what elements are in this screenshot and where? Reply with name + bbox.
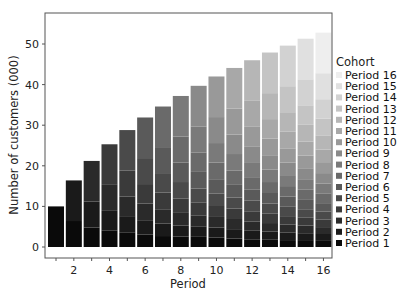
bar-segment-cohort-11 <box>244 101 260 127</box>
bar-segment-cohort-5 <box>226 197 242 208</box>
legend-item: Period 1 <box>336 237 390 250</box>
bar-segment-cohort-13 <box>298 105 314 124</box>
legend-swatch <box>336 229 342 235</box>
bar-segment-cohort-2 <box>226 229 242 238</box>
bar-segment-cohort-5 <box>298 209 314 218</box>
legend-swatch <box>336 106 342 112</box>
bar-segment-cohort-1 <box>48 206 64 247</box>
bar-segment-cohort-3 <box>244 221 260 230</box>
bar-segment-cohort-1 <box>155 236 171 247</box>
y-tick-label: 40 <box>25 79 39 92</box>
bar-segment-cohort-10 <box>244 127 260 146</box>
bar-segment-cohort-3 <box>191 215 207 226</box>
bars-layer <box>48 33 331 247</box>
bar-segment-cohort-2 <box>66 180 82 221</box>
legend-swatch <box>336 72 342 78</box>
x-tick-label: 2 <box>70 264 77 277</box>
bar-period-10 <box>208 76 224 247</box>
bar-segment-cohort-9 <box>208 117 224 143</box>
bar-segment-cohort-5 <box>137 158 153 184</box>
bar-segment-cohort-7 <box>173 137 189 163</box>
bar-segment-cohort-14 <box>315 99 331 118</box>
y-tick-label: 50 <box>25 38 39 51</box>
bar-segment-cohort-12 <box>315 135 331 149</box>
bar-segment-cohort-3 <box>119 197 135 216</box>
bar-segment-cohort-3 <box>298 225 314 233</box>
bar-segment-cohort-5 <box>191 189 207 203</box>
bar-period-4 <box>101 144 117 247</box>
bar-segment-cohort-5 <box>280 207 296 216</box>
bar-segment-cohort-10 <box>298 156 314 169</box>
y-tick-label: 0 <box>32 241 39 254</box>
bar-segment-cohort-4 <box>315 219 331 227</box>
bar-segment-cohort-3 <box>280 225 296 233</box>
bar-segment-cohort-12 <box>262 93 278 119</box>
x-tick-label: 6 <box>142 264 149 277</box>
bar-segment-cohort-3 <box>84 161 100 202</box>
bar-segment-cohort-10 <box>226 109 242 135</box>
legend-swatch <box>336 83 342 89</box>
bar-period-7 <box>155 107 171 247</box>
bar-segment-cohort-5 <box>262 204 278 214</box>
bar-period-9 <box>191 86 207 247</box>
x-axis-title: Period <box>170 277 206 291</box>
bar-segment-cohort-10 <box>262 139 278 156</box>
legend-swatch <box>336 184 342 190</box>
x-tick-label: 12 <box>245 264 259 277</box>
bar-segment-cohort-15 <box>315 73 331 99</box>
bar-segment-cohort-7 <box>315 194 331 203</box>
bar-period-3 <box>84 161 100 247</box>
bar-segment-cohort-9 <box>191 86 207 127</box>
x-tick-label: 4 <box>106 264 113 277</box>
bar-segment-cohort-8 <box>315 184 331 194</box>
bar-segment-cohort-2 <box>244 231 260 240</box>
legend-swatch <box>336 139 342 145</box>
legend-swatch <box>336 128 342 134</box>
bar-segment-cohort-1 <box>315 241 331 247</box>
x-tick-label: 10 <box>209 264 223 277</box>
bar-segment-cohort-11 <box>226 68 242 109</box>
bar-segment-cohort-1 <box>119 233 135 247</box>
bar-segment-cohort-9 <box>315 173 331 184</box>
bar-segment-cohort-5 <box>315 212 331 220</box>
bar-segment-cohort-1 <box>66 221 82 247</box>
bar-segment-cohort-9 <box>226 135 242 154</box>
legend-swatch <box>336 162 342 168</box>
bar-segment-cohort-6 <box>226 185 242 198</box>
y-axis: 01020304050 <box>25 38 45 254</box>
y-tick-label: 30 <box>25 119 39 132</box>
bar-period-13 <box>262 53 278 247</box>
bar-segment-cohort-4 <box>173 199 189 213</box>
bar-segment-cohort-2 <box>173 225 189 236</box>
bar-period-11 <box>226 68 242 247</box>
bar-segment-cohort-2 <box>101 211 117 230</box>
bar-period-8 <box>173 96 189 247</box>
legend-swatch <box>336 117 342 123</box>
bar-segment-cohort-6 <box>315 203 331 212</box>
bar-segment-cohort-4 <box>119 171 135 197</box>
bar-segment-cohort-4 <box>155 193 171 210</box>
bar-segment-cohort-8 <box>244 163 260 177</box>
bar-segment-cohort-4 <box>208 206 224 217</box>
bar-segment-cohort-1 <box>262 239 278 247</box>
bar-segment-cohort-16 <box>315 33 331 74</box>
bar-segment-cohort-4 <box>101 144 117 185</box>
bar-segment-cohort-8 <box>298 179 314 190</box>
bar-segment-cohort-3 <box>101 185 117 211</box>
legend-swatch <box>336 218 342 224</box>
bar-segment-cohort-1 <box>208 238 224 247</box>
bar-segment-cohort-2 <box>298 233 314 240</box>
bar-segment-cohort-7 <box>226 171 242 185</box>
bar-segment-cohort-6 <box>262 193 278 204</box>
bar-segment-cohort-5 <box>119 130 135 171</box>
bar-period-14 <box>280 46 296 247</box>
bar-segment-cohort-14 <box>280 46 296 87</box>
bar-segment-cohort-10 <box>208 76 224 117</box>
bar-period-6 <box>137 117 153 247</box>
bar-segment-cohort-2 <box>208 228 224 238</box>
bar-segment-cohort-1 <box>226 238 242 247</box>
bar-segment-cohort-3 <box>315 227 331 234</box>
y-tick-label: 20 <box>25 160 39 173</box>
bar-segment-cohort-12 <box>244 60 260 101</box>
bar-segment-cohort-6 <box>191 172 207 189</box>
